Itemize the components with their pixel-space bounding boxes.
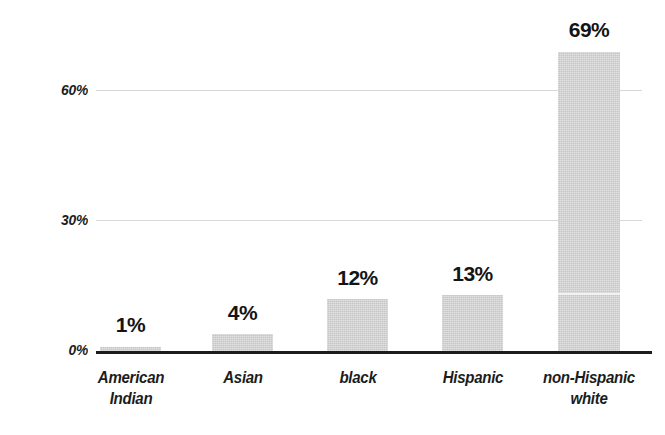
x-label-line2: Indian: [74, 388, 189, 409]
x-label-line1: non-Hispanic: [543, 369, 635, 386]
value-label-american-indian: 1%: [100, 313, 161, 337]
x-label-line1: black: [339, 369, 376, 386]
x-label-line2: white: [532, 388, 647, 409]
x-label-line1: American: [98, 369, 164, 386]
x-label-asian: Asian: [186, 367, 301, 388]
x-label-hispanic: Hispanic: [416, 367, 531, 388]
value-label-asian: 4%: [212, 301, 273, 325]
x-label-non-hispanic-white: non-Hispanic white: [532, 367, 647, 409]
bar-hispanic: [442, 295, 503, 351]
x-axis-line: [96, 351, 652, 354]
bar-chart: 60% 30% 0% 1% 4% 12% 13% 69% American In…: [0, 0, 665, 435]
value-label-non-hispanic-white: 69%: [558, 18, 620, 42]
x-label-black: black: [301, 367, 416, 388]
value-label-hispanic: 13%: [442, 262, 503, 286]
scan-line-artifact: [558, 293, 620, 295]
bar-non-hispanic-white: [558, 52, 620, 351]
value-label-black: 12%: [327, 266, 388, 290]
x-label-line1: Hispanic: [443, 369, 503, 386]
bar-asian: [212, 334, 273, 351]
x-label-american-indian: American Indian: [74, 367, 189, 409]
bar-black: [327, 299, 388, 351]
x-label-line1: Asian: [223, 369, 263, 386]
